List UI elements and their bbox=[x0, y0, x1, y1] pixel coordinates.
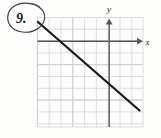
y-axis-label: y bbox=[106, 4, 111, 14]
exercise-figure: y x 9. bbox=[0, 0, 161, 138]
x-axis-label: x bbox=[145, 37, 150, 47]
exercise-number-label: 9. bbox=[16, 11, 27, 26]
